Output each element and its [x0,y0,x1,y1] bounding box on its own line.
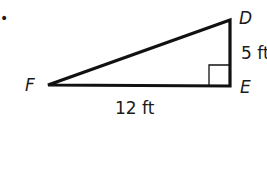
side-label-de: 5 ft [241,45,267,62]
triangle-def [48,20,230,86]
vertex-label-e: E [240,79,251,96]
right-triangle-figure [0,0,267,170]
side-label-fe: 12 ft [115,100,154,117]
vertex-label-f: F [25,77,35,94]
vertex-label-d: D [239,10,252,27]
right-angle-marker [209,65,230,86]
